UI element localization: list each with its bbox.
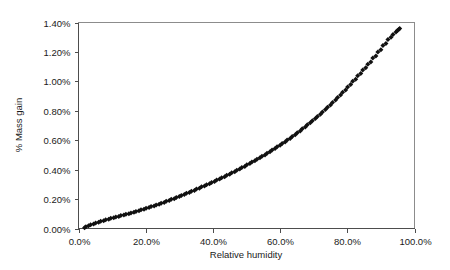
y-tick-label: 1.00% <box>44 76 71 87</box>
chart-container: 0.00%0.20%0.40%0.60%0.80%1.00%1.20%1.40%… <box>0 0 450 270</box>
mass-gain-vs-relative-humidity-scatter-chart: 0.00%0.20%0.40%0.60%0.80%1.00%1.20%1.40%… <box>0 0 450 270</box>
y-tick-label: 0.40% <box>44 165 71 176</box>
x-tick-label: 100.0% <box>399 236 432 247</box>
x-tick-label: 0.0% <box>69 236 91 247</box>
x-tick-label: 40.0% <box>200 236 227 247</box>
x-tick-label: 20.0% <box>133 236 160 247</box>
y-tick-label: 0.80% <box>44 106 71 117</box>
y-tick-label: 0.00% <box>44 224 71 235</box>
y-axis-title: % Mass gain <box>13 98 24 152</box>
y-tick-label: 1.40% <box>44 18 71 29</box>
y-tick-label: 0.20% <box>44 194 71 205</box>
x-tick-label: 60.0% <box>267 236 294 247</box>
x-axis-title: Relative humidity <box>210 249 283 260</box>
x-tick-label: 80.0% <box>334 236 361 247</box>
y-tick-label: 0.60% <box>44 135 71 146</box>
y-tick-label: 1.20% <box>44 47 71 58</box>
